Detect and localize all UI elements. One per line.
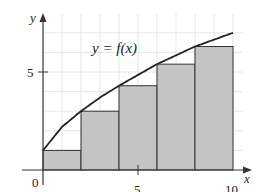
y-tick-label-5: 5 bbox=[27, 65, 34, 80]
y-axis-arrow-icon bbox=[40, 13, 47, 22]
bar bbox=[81, 111, 119, 170]
bar bbox=[43, 150, 81, 170]
bar bbox=[195, 47, 233, 170]
bar bbox=[157, 64, 195, 170]
x-tick-label-5: 5 bbox=[134, 182, 141, 192]
x-axis-label: x bbox=[243, 171, 250, 186]
x-tick-label-10: 10 bbox=[225, 182, 238, 192]
riemann-sum-chart: y x y = f(x) 5 0 5 10 bbox=[0, 0, 265, 192]
x-tick-label-0: 0 bbox=[32, 175, 39, 190]
curve-label: y = f(x) bbox=[90, 40, 137, 57]
bar bbox=[119, 86, 157, 170]
y-axis-label: y bbox=[28, 10, 36, 25]
